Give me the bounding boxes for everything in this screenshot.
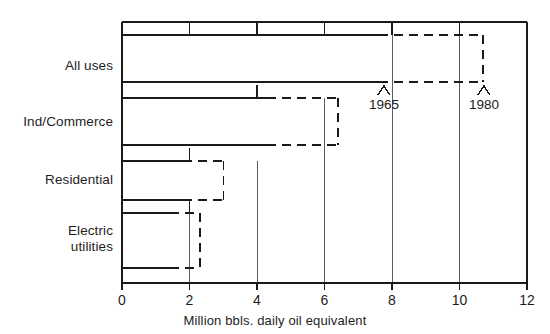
- annotation-label-1965: 1965: [354, 97, 414, 112]
- x-tick-label-6: 6: [305, 292, 345, 308]
- category-label-electric-utilities-line2: utilities: [0, 239, 113, 254]
- x-tick-label-0: 0: [102, 292, 142, 308]
- x-tick-label-4: 4: [237, 292, 277, 308]
- category-label-residential: Residential: [0, 172, 113, 187]
- category-label-ind-commerce: Ind/Commerce: [0, 114, 113, 129]
- chart-canvas: [0, 0, 550, 334]
- x-tick-label-10: 10: [440, 292, 480, 308]
- bar-group-electric-utilities: [122, 200, 200, 268]
- caret-up-icon-1965: [378, 86, 390, 95]
- bar-group-all-uses: [122, 22, 483, 82]
- bar-group-ind-commerce: [122, 85, 338, 145]
- x-tick-label-2: 2: [170, 292, 210, 308]
- bar-group-residential: [122, 148, 224, 200]
- year-caret-markers: [378, 86, 490, 95]
- top-tick-stubs: [190, 22, 460, 35]
- annotation-label-1980: 1980: [454, 97, 514, 112]
- x-gridlines: [190, 35, 460, 283]
- category-label-all-uses: All uses: [0, 58, 113, 73]
- caret-up-icon-1980: [478, 86, 490, 95]
- x-tick-label-8: 8: [372, 292, 412, 308]
- x-axis-ticks: [122, 283, 527, 290]
- category-label-electric-utilities-line1: Electric: [0, 223, 113, 238]
- x-axis-title: Million bbls. daily oil equivalent: [0, 313, 550, 328]
- x-tick-label-12: 12: [507, 292, 547, 308]
- bar-chart: All uses Ind/Commerce Residential Electr…: [0, 0, 550, 334]
